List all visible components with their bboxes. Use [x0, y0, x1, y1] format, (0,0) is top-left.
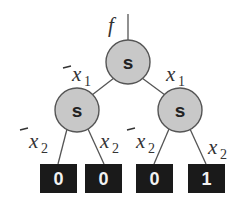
svg-text:x: x	[71, 62, 82, 86]
svg-text:x: x	[165, 62, 176, 86]
edge-label-not-x1: x 1	[63, 62, 91, 89]
leaf-1: 0	[85, 164, 122, 193]
svg-text:x: x	[207, 135, 218, 159]
svg-text:1: 1	[178, 74, 185, 89]
svg-text:1: 1	[84, 74, 91, 89]
node-left: s	[55, 88, 99, 132]
edge-label-not-x2-left: x 2	[20, 128, 48, 156]
leaf-0: 0	[40, 164, 77, 193]
svg-text:2: 2	[112, 141, 119, 156]
edge-label-x2-left: x 2	[99, 129, 119, 156]
decision-tree-diagram: f x 1 x 1 x 2 x 2 x 2 x 2 s s	[0, 0, 247, 213]
edge-label-x2-right: x 2	[207, 135, 227, 162]
svg-text:0: 0	[98, 169, 108, 189]
edge-right-right	[190, 129, 206, 164]
leaf-3: 1	[188, 164, 225, 193]
svg-text:x: x	[135, 129, 146, 153]
leaf-2: 0	[136, 164, 173, 193]
svg-text:2: 2	[41, 141, 48, 156]
svg-text:0: 0	[149, 169, 159, 189]
svg-text:s: s	[175, 100, 186, 121]
node-right: s	[158, 88, 202, 132]
svg-text:1: 1	[201, 169, 211, 189]
edge-root-right	[142, 78, 165, 95]
node-root: s	[106, 40, 150, 84]
svg-text:2: 2	[148, 141, 155, 156]
svg-text:s: s	[72, 100, 83, 121]
svg-text:x: x	[28, 129, 39, 153]
svg-text:0: 0	[53, 169, 63, 189]
edge-root-left	[92, 78, 114, 95]
edge-label-x1: x 1	[165, 62, 185, 89]
svg-text:x: x	[99, 129, 110, 153]
edge-right-left	[154, 129, 169, 164]
svg-text:2: 2	[220, 147, 227, 162]
edge-left-left	[58, 129, 67, 164]
edge-label-not-x2-right: x 2	[127, 128, 155, 156]
function-label: f	[108, 13, 117, 37]
svg-text:s: s	[123, 52, 134, 73]
